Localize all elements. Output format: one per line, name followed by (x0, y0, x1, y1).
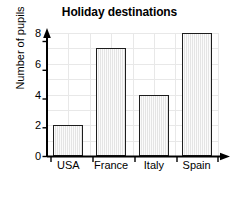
plot-area (47, 33, 218, 156)
x-axis-tick-labels: USAFranceItalySpain (47, 159, 218, 175)
bar-chart: Holiday destinations Number of pupils 02… (0, 0, 239, 203)
y-tick-label: 6 (27, 59, 41, 70)
gridline-vertical (218, 33, 219, 156)
gridline-horizontal (47, 156, 218, 157)
y-tick-label: 0 (27, 151, 41, 162)
chart-title: Holiday destinations (0, 5, 239, 19)
x-tick-label: France (90, 159, 133, 171)
y-axis-tick-labels: 02468 (27, 33, 41, 156)
bar-series (47, 33, 218, 156)
y-tick-label: 2 (27, 120, 41, 131)
bar (96, 48, 126, 156)
bar (182, 33, 212, 156)
y-axis-title: Number of pupils (14, 0, 26, 104)
bar (53, 125, 83, 156)
x-tick-label: Spain (175, 159, 218, 171)
x-tick-label: USA (47, 159, 90, 171)
y-tick-label: 8 (27, 28, 41, 39)
bar (139, 95, 169, 157)
x-tick-label: Italy (133, 159, 176, 171)
y-tick-label: 4 (27, 90, 41, 101)
